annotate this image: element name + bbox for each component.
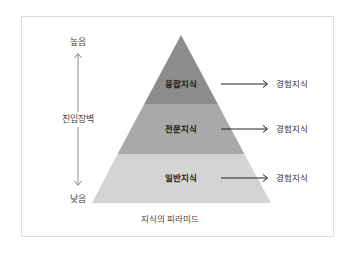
- axis-down-arrow-icon: [75, 127, 82, 186]
- tier-output-top: 경험지식: [276, 80, 308, 89]
- tier-label-middle: 전문지식: [165, 125, 197, 134]
- arrow-right-icon: [221, 81, 268, 88]
- tier-output-middle: 경험지식: [276, 125, 308, 134]
- tier-label-top: 융합지식: [165, 80, 197, 89]
- axis-bottom-label: 낮음: [70, 195, 86, 204]
- diagram-caption: 지식의 피라미드: [141, 215, 200, 224]
- tier-label-bottom: 일반지식: [165, 174, 197, 183]
- axis-top-label: 높음: [70, 38, 86, 47]
- axis-label: 진입장벽: [62, 115, 94, 124]
- tier-output-bottom: 경험지식: [276, 174, 308, 183]
- pyramid-tier-top: [144, 35, 218, 104]
- axis-up-arrow-icon: [75, 54, 82, 113]
